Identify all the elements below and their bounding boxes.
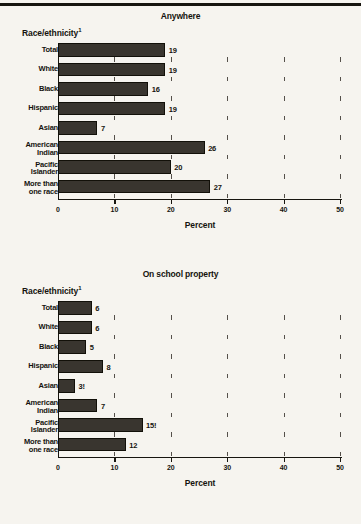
category-label-line: one race bbox=[29, 445, 58, 454]
bar-row: More thanone race27 bbox=[0, 180, 361, 200]
category-label-line: Hispanic bbox=[28, 361, 58, 370]
category-label-line: Islander bbox=[31, 425, 58, 434]
x-tick-label: 30 bbox=[215, 464, 239, 471]
category-label-line: Islander bbox=[31, 167, 58, 176]
bar bbox=[58, 180, 210, 194]
category-label-line: Total bbox=[42, 45, 58, 54]
bar-value-label: 19 bbox=[169, 66, 177, 75]
bar-value-label: 16 bbox=[152, 85, 160, 94]
chart-panel-school: On school property Race/ethnicity1 Total… bbox=[0, 265, 361, 520]
bar bbox=[58, 379, 75, 393]
x-axis-title-school: Percent bbox=[58, 478, 342, 488]
category-label-more-than-one-race: More thanone race bbox=[0, 438, 58, 454]
x-tick-label: 40 bbox=[272, 206, 296, 213]
category-label-line: Hispanic bbox=[28, 103, 58, 112]
category-label-white: White bbox=[0, 65, 58, 73]
bar bbox=[58, 121, 97, 135]
bar bbox=[58, 63, 165, 77]
bar bbox=[58, 321, 92, 335]
bar-value-label: 27 bbox=[214, 183, 222, 192]
x-axis-tick bbox=[114, 458, 115, 462]
bar-row: Hispanic8 bbox=[0, 360, 361, 380]
category-label-pacific-islander: PacificIslander bbox=[0, 419, 58, 435]
bar-value-label: 3! bbox=[78, 382, 84, 391]
bar bbox=[58, 43, 165, 57]
plot-area-anywhere: Total19White19Black16Hispanic19Asian7Ame… bbox=[0, 7, 361, 262]
bar bbox=[58, 160, 171, 174]
bar-row: Asian7 bbox=[0, 121, 361, 141]
x-axis-tick bbox=[227, 458, 228, 462]
plot-area-school: Total6White6Black5Hispanic8Asian3!Americ… bbox=[0, 265, 361, 520]
bar-row: AmericanIndian26 bbox=[0, 141, 361, 161]
bar-row: White6 bbox=[0, 321, 361, 341]
category-label-hispanic: Hispanic bbox=[0, 104, 58, 112]
category-label-line: Indian bbox=[37, 148, 58, 157]
x-axis-tick bbox=[340, 200, 341, 204]
x-axis-tick bbox=[284, 458, 285, 462]
x-axis-line bbox=[58, 199, 342, 200]
x-tick-label: 30 bbox=[215, 206, 239, 213]
category-label-asian: Asian bbox=[0, 382, 58, 390]
bar-value-label: 19 bbox=[169, 105, 177, 114]
x-tick-label: 40 bbox=[272, 464, 296, 471]
x-tick-label: 50 bbox=[328, 464, 352, 471]
category-label-american-indian: AmericanIndian bbox=[0, 399, 58, 415]
bar-row: Hispanic19 bbox=[0, 102, 361, 122]
category-label-more-than-one-race: More thanone race bbox=[0, 180, 58, 196]
x-axis-tick bbox=[340, 458, 341, 462]
bar-value-label: 19 bbox=[169, 46, 177, 55]
x-axis-tick bbox=[171, 200, 172, 204]
bar bbox=[58, 340, 86, 354]
x-axis-tick bbox=[114, 200, 115, 204]
category-label-line: White bbox=[39, 64, 58, 73]
bar-value-label: 20 bbox=[174, 163, 182, 172]
x-tick-label: 20 bbox=[159, 206, 183, 213]
category-label-line: Black bbox=[39, 342, 58, 351]
bar bbox=[58, 360, 103, 374]
bar-row: PacificIslander15! bbox=[0, 418, 361, 438]
x-axis-tick bbox=[284, 200, 285, 204]
x-tick-label: 0 bbox=[46, 464, 70, 471]
bar bbox=[58, 102, 165, 116]
x-axis-title-anywhere: Percent bbox=[58, 220, 342, 230]
x-axis-tick bbox=[227, 200, 228, 204]
bar-value-label: 15! bbox=[146, 421, 156, 430]
bar-row: AmericanIndian7 bbox=[0, 399, 361, 419]
bar-row: Black5 bbox=[0, 340, 361, 360]
category-label-american-indian: AmericanIndian bbox=[0, 141, 58, 157]
x-axis-line bbox=[58, 457, 342, 458]
bar-value-label: 7 bbox=[101, 402, 105, 411]
category-label-asian: Asian bbox=[0, 124, 58, 132]
category-label-line: Asian bbox=[39, 123, 58, 132]
x-tick-label: 0 bbox=[46, 206, 70, 213]
category-label-line: one race bbox=[29, 187, 58, 196]
bar-row: PacificIslander20 bbox=[0, 160, 361, 180]
bar-value-label: 5 bbox=[90, 343, 94, 352]
bar-row: Asian3! bbox=[0, 379, 361, 399]
bar-row: White19 bbox=[0, 63, 361, 83]
category-label-line: White bbox=[39, 322, 58, 331]
page-top-rule bbox=[0, 3, 361, 6]
chart-panel-anywhere: Anywhere Race/ethnicity1 Total19White19B… bbox=[0, 7, 361, 262]
bar-value-label: 8 bbox=[107, 363, 111, 372]
bar bbox=[58, 399, 97, 413]
bar-value-label: 12 bbox=[129, 441, 137, 450]
category-label-line: Total bbox=[42, 303, 58, 312]
category-label-pacific-islander: PacificIslander bbox=[0, 161, 58, 177]
category-label-white: White bbox=[0, 323, 58, 331]
x-tick-label: 10 bbox=[102, 206, 126, 213]
bar-row: Total6 bbox=[0, 301, 361, 321]
bar-value-label: 7 bbox=[101, 124, 105, 133]
category-label-line: Black bbox=[39, 84, 58, 93]
category-label-line: Asian bbox=[39, 381, 58, 390]
bar-row: Black16 bbox=[0, 82, 361, 102]
bar-row: Total19 bbox=[0, 43, 361, 63]
bar-row: More thanone race12 bbox=[0, 438, 361, 458]
bar bbox=[58, 438, 126, 452]
bar-value-label: 26 bbox=[208, 144, 216, 153]
category-label-hispanic: Hispanic bbox=[0, 362, 58, 370]
bar bbox=[58, 82, 148, 96]
bar bbox=[58, 418, 143, 432]
bar-value-label: 6 bbox=[95, 324, 99, 333]
category-label-black: Black bbox=[0, 343, 58, 351]
